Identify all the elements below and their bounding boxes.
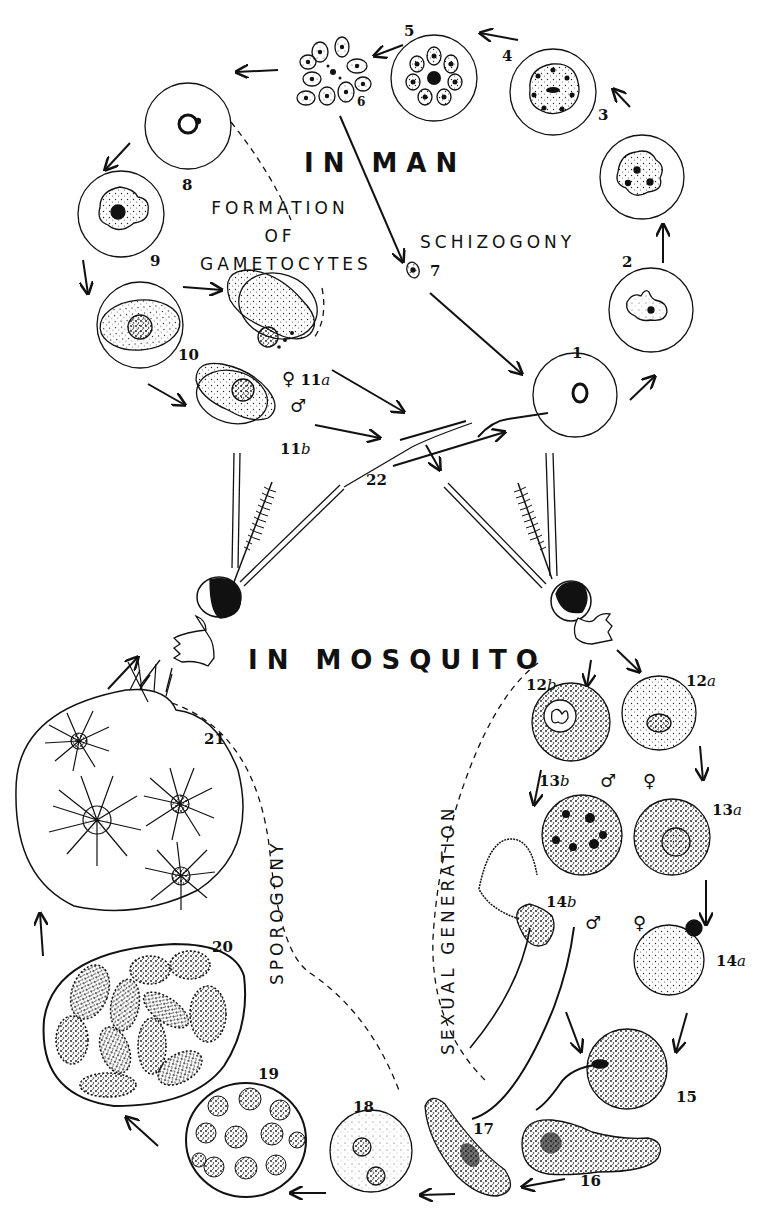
stage-13b-cell [542, 795, 622, 875]
stage-3-cell [600, 135, 684, 219]
stage-label-18: 18 [353, 1098, 374, 1116]
stage-label-12b: 12b [526, 676, 556, 694]
stage-label-22: 22 [366, 471, 387, 489]
stage-label-14a: 14a [716, 952, 746, 970]
malaria-life-cycle-diagram: IN MAN IN MOSQUITO FORMATION OF GAMETOCY… [0, 0, 764, 1216]
stage-suffix: a [321, 371, 330, 389]
stage-number: 11 [280, 440, 301, 458]
stage-label-11b: 11b [280, 440, 310, 458]
phase-line-gametocytes: GAMETOCYTES [200, 250, 360, 278]
phase-label-gametocytes: FORMATION OF GAMETOCYTES [200, 194, 360, 278]
title-in-mosquito: IN MOSQUITO [248, 645, 547, 675]
stage-10-cell [97, 282, 183, 368]
phase-label-sexual-generation: SEXUAL GENERATION [434, 805, 462, 1055]
male-symbol-11b: ♂ [290, 395, 306, 416]
stage-suffix: a [733, 801, 742, 819]
stage-number: 12 [686, 672, 707, 690]
stage-label-13a: 13a [712, 801, 742, 819]
stage-label-20: 20 [212, 938, 233, 956]
female-symbol: ♀ [282, 368, 295, 389]
stage-4-cell [510, 49, 596, 135]
stage-label-15: 15 [676, 1088, 697, 1106]
stage-number: 14 [546, 893, 567, 911]
stage-number: 13 [539, 772, 560, 790]
female-symbol-13a: ♀ [643, 770, 656, 791]
stage-suffix: b [567, 893, 577, 911]
mosquito-left [174, 423, 472, 666]
stage-12a-cell [622, 676, 696, 750]
stage-label-5: 5 [404, 22, 414, 40]
stage-label-19: 19 [258, 1065, 279, 1083]
phase-label-sporogony: SPOROGONY [263, 840, 291, 985]
stage-label-11a: ♀ 11a [282, 368, 330, 389]
stage-7-merozoite [405, 260, 422, 279]
stage-label-6: 6 [357, 95, 365, 109]
male-symbol-13b: ♂ [600, 770, 616, 791]
stage-label-2: 2 [622, 253, 632, 271]
stage-number: 12 [526, 676, 547, 694]
stage-label-17: 17 [473, 1120, 494, 1138]
stage-8-cell [145, 83, 231, 169]
stage-label-16: 16 [580, 1172, 601, 1190]
stage-label-1: 1 [572, 344, 582, 362]
stage-2-cell [609, 268, 693, 352]
stage-label-4: 4 [502, 47, 512, 65]
stage-label-13b: 13b [539, 772, 569, 790]
stage-11b-gametocyte [190, 363, 275, 432]
stage-suffix: b [547, 676, 557, 694]
stage-13a-cell [634, 799, 710, 875]
stage-18-oocyst [330, 1110, 412, 1192]
stage-suffix: a [707, 672, 716, 690]
diagram-drawing [0, 0, 764, 1216]
mosquito-right [444, 453, 612, 644]
stage-label-7: 7 [430, 262, 440, 280]
phase-line-formation: FORMATION [200, 194, 360, 222]
stage-label-12a: 12a [686, 672, 716, 690]
male-symbol-14b: ♂ [585, 912, 601, 933]
stage-label-8: 8 [182, 176, 192, 194]
stage-label-21: 21 [204, 730, 225, 748]
stage-20-oocyst [44, 944, 246, 1106]
stage-16-ookinete [522, 1120, 660, 1175]
stage-suffix: b [560, 772, 570, 790]
phase-line-of: OF [200, 222, 360, 250]
title-in-man: IN MAN [304, 148, 466, 178]
stage-label-3: 3 [598, 106, 608, 124]
stage-label-10: 10 [178, 346, 199, 364]
stage-9-cell [78, 171, 164, 257]
stage-label-14b: 14b [546, 893, 576, 911]
stage-5-cell [391, 35, 477, 121]
stage-21-oocyst-rupturing [16, 660, 243, 910]
stage-suffix: b [301, 440, 311, 458]
stage-15-zygote [536, 1029, 667, 1110]
female-symbol-14a: ♀ [633, 912, 646, 933]
phase-label-schizogony: SCHIZOGONY [420, 228, 575, 256]
stage-number: 11 [300, 371, 321, 389]
stage-12b-cell [532, 683, 610, 761]
stage-17-ookinete [425, 1098, 510, 1196]
stage-suffix: a [737, 952, 746, 970]
stage-14b-microgametes [470, 839, 574, 1119]
stage-number: 13 [712, 801, 733, 819]
stage-19-oocyst [186, 1083, 306, 1197]
stage-number: 14 [716, 952, 737, 970]
stage-label-9: 9 [150, 252, 160, 270]
stage-1-cell [533, 353, 617, 437]
